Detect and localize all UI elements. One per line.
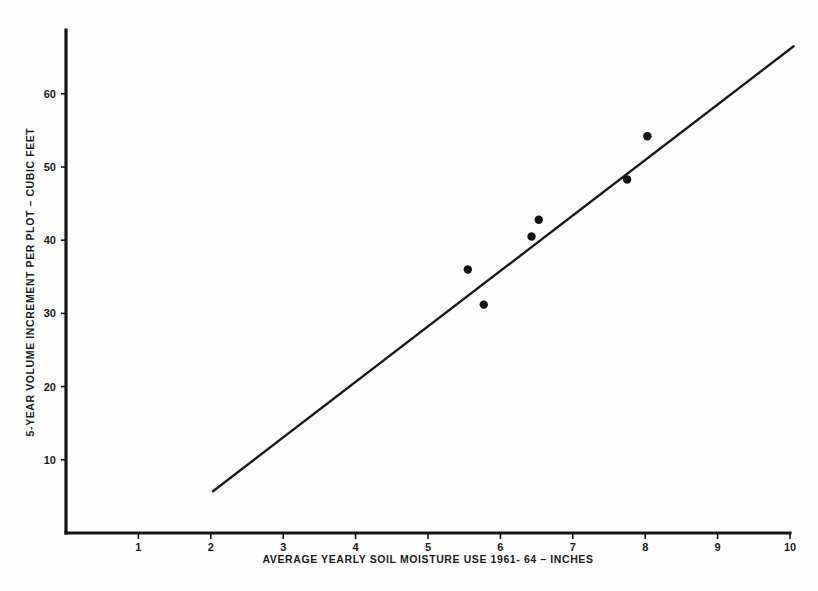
- regression-line: [213, 46, 794, 491]
- y-tick-label: 60: [44, 88, 56, 100]
- y-tick-label: 20: [44, 381, 56, 393]
- x-tick-label: 3: [280, 541, 286, 553]
- y-tick-label: 30: [44, 307, 56, 319]
- chart-figure: 102030405060 12345678910 AVERAGE YEARLY …: [0, 0, 818, 591]
- x-axis-tick-group: 12345678910: [135, 533, 796, 553]
- y-tick-label: 50: [44, 161, 56, 173]
- x-tick-label: 5: [425, 541, 431, 553]
- x-tick-label: 8: [642, 541, 648, 553]
- data-point-group: [464, 132, 652, 309]
- x-tick-label: 1: [135, 541, 141, 553]
- y-tick-label: 10: [44, 454, 56, 466]
- y-tick-label: 40: [44, 234, 56, 246]
- data-point: [623, 175, 631, 183]
- x-tick-label: 7: [570, 541, 576, 553]
- y-axis-title: 5-YEAR VOLUME INCREMENT PER PLOT – CUBIC…: [24, 128, 36, 437]
- data-point: [480, 300, 488, 308]
- data-point: [535, 216, 543, 224]
- data-point: [527, 232, 535, 240]
- x-tick-label: 10: [784, 541, 796, 553]
- data-point: [464, 265, 472, 273]
- regression-line-group: [213, 46, 794, 491]
- x-tick-label: 4: [353, 541, 360, 553]
- x-axis-title: AVERAGE YEARLY SOIL MOISTURE USE 1961- 6…: [262, 553, 593, 565]
- data-point: [643, 132, 651, 140]
- y-axis-tick-group: 102030405060: [44, 88, 66, 466]
- x-tick-label: 6: [497, 541, 503, 553]
- x-tick-label: 9: [715, 541, 721, 553]
- x-tick-label: 2: [208, 541, 214, 553]
- scatter-plot-canvas: 102030405060 12345678910 AVERAGE YEARLY …: [0, 0, 818, 591]
